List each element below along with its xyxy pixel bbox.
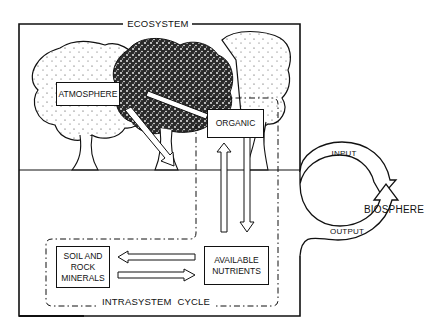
biosphere-label: BIOSPHERE [356, 204, 432, 215]
soil-label-line2: ROCK [71, 262, 96, 273]
organic-node: ORGANIC [207, 109, 264, 138]
output-arrow [300, 184, 398, 256]
soil-label-line1: SOIL AND [64, 251, 103, 262]
soil-label-line3: MINERALS [61, 273, 104, 284]
atmosphere-node: ATMOSPHERE [56, 82, 120, 106]
atmosphere-label: ATMOSPHERE [59, 89, 118, 100]
nutrients-label-line2: NUTRIENTS [212, 266, 261, 277]
soil-rock-minerals-node: SOIL AND ROCK MINERALS [56, 246, 110, 288]
ecosystem-title: ECOSYSTEM [124, 18, 192, 29]
organic-nutrients-arrows [217, 130, 254, 232]
available-nutrients-node: AVAILABLE NUTRIENTS [204, 246, 269, 285]
biosphere-cycle [300, 142, 398, 256]
input-label: INPUT [326, 148, 362, 159]
soil-nutrients-arrows [118, 251, 195, 281]
nutrients-label-line1: AVAILABLE [214, 255, 259, 266]
output-label: OUTPUT [326, 226, 368, 237]
organic-label: ORGANIC [216, 118, 256, 129]
intrasystem-cycle-label: INTRASYSTEM CYCLE [96, 296, 216, 307]
